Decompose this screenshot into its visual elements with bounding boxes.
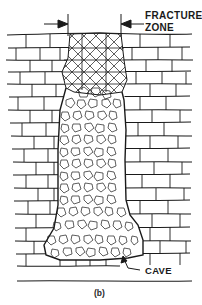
fracture-zone-label-line2: ZONE: [145, 22, 174, 33]
diagram-figure: FRACTURE ZONE CAVE (b): [0, 0, 202, 305]
fracture-zone-label-line1: FRACTURE: [145, 10, 202, 21]
cross-section-drawing: [0, 0, 202, 305]
figure-caption: (b): [94, 288, 105, 298]
fracture-zone: [62, 33, 127, 95]
cave-label: CAVE: [145, 265, 172, 276]
